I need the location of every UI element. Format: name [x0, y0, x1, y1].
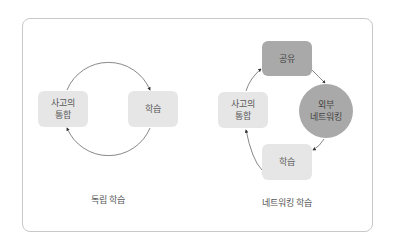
node-learning-networked: 학습	[262, 144, 312, 180]
node-external-networking: 외부 네트워킹	[299, 84, 353, 138]
arrow-integration-to-learning	[67, 62, 150, 90]
caption-independent-learning: 독립 학습	[58, 193, 158, 206]
arrow-learning-to-integration	[246, 130, 262, 170]
caption-networking-learning: 네트워킹 학습	[237, 196, 337, 209]
arrow-share-to-networking	[312, 70, 325, 83]
arrow-networking-to-learning	[313, 139, 324, 150]
arrow-integration-to-share	[246, 69, 261, 91]
arrow-learning-to-integration	[67, 128, 150, 156]
node-share: 공유	[262, 41, 312, 76]
node-thought-integration: 사고의 통합	[38, 91, 88, 127]
node-learning: 학습	[128, 91, 178, 127]
node-thought-integration-networked: 사고의 통합	[218, 92, 268, 128]
